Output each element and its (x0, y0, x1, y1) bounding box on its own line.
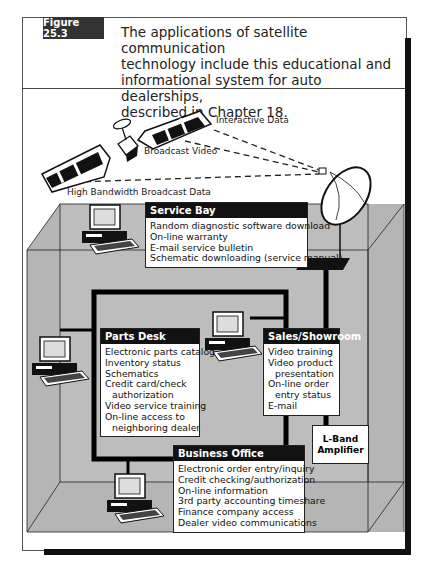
label-interactive-data: Interactive Data (216, 115, 289, 125)
station-parts-desk: Parts Desk Electronic parts catalog Inve… (100, 328, 200, 437)
label-broadcast-video: Broadcast Video (144, 146, 217, 156)
station-item: Inventory status (105, 358, 195, 369)
station-item: E-mail (268, 401, 335, 412)
amplifier-line: L-Band (313, 434, 368, 445)
station-service-bay: Service Bay Random diagnostic software d… (145, 202, 308, 268)
station-item: neighboring dealer (105, 423, 195, 434)
station-item: On-line warranty (150, 232, 303, 243)
l-band-amplifier: L-Band Amplifier (312, 425, 369, 464)
station-item: Dealer video communications (178, 518, 300, 529)
amplifier-line: Amplifier (313, 445, 368, 456)
station-business-office: Business Office Electronic order entry/i… (173, 445, 305, 533)
station-title: Parts Desk (101, 329, 199, 344)
station-sales-showroom: Sales/Showroom Video training Video prod… (263, 328, 340, 416)
station-title: Service Bay (146, 203, 307, 218)
station-item: On-line access to (105, 412, 195, 423)
station-item: Credit checking/authorization (178, 475, 300, 486)
signal-beams (75, 130, 319, 182)
station-title: Sales/Showroom (264, 329, 339, 344)
label-high-bandwidth: High Bandwidth Broadcast Data (67, 187, 211, 197)
station-title: Business Office (174, 446, 304, 461)
station-item: Schematic downloading (service manual) (150, 253, 303, 264)
station-item: Video product (268, 358, 335, 369)
